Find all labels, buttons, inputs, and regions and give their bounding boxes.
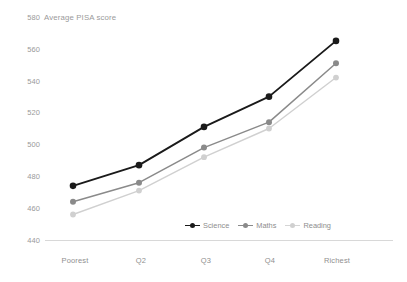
legend-marker-science-icon bbox=[185, 222, 200, 229]
legend-label-maths: Maths bbox=[255, 221, 276, 230]
series-line-maths bbox=[73, 63, 336, 202]
data-point[interactable] bbox=[266, 93, 273, 100]
data-point[interactable] bbox=[333, 60, 339, 66]
x-axis-label-richest: Richest bbox=[324, 256, 350, 265]
data-point[interactable] bbox=[201, 145, 207, 151]
pisa-score-line-chart: Average PISA score 580 560 540 520 500 4… bbox=[0, 0, 407, 282]
x-axis-label-q2: Q2 bbox=[136, 256, 146, 265]
series-maths bbox=[70, 60, 339, 205]
data-point[interactable] bbox=[136, 180, 142, 186]
data-point[interactable] bbox=[70, 199, 76, 205]
legend-label-science: Science bbox=[202, 221, 229, 230]
legend-marker-reading-icon bbox=[285, 222, 300, 229]
legend-item-reading[interactable]: Reading bbox=[285, 221, 331, 230]
data-point[interactable] bbox=[136, 188, 142, 194]
plot-area bbox=[0, 0, 407, 282]
data-point[interactable] bbox=[266, 126, 272, 132]
data-point[interactable] bbox=[201, 154, 207, 160]
data-point[interactable] bbox=[136, 162, 143, 169]
chart-legend: Science Maths Reading bbox=[185, 221, 331, 230]
data-point[interactable] bbox=[201, 124, 208, 131]
legend-item-maths[interactable]: Maths bbox=[238, 221, 276, 230]
series-line-science bbox=[73, 41, 336, 186]
x-axis-label-poorest: Poorest bbox=[62, 256, 89, 265]
series-science bbox=[70, 38, 340, 190]
legend-item-science[interactable]: Science bbox=[185, 221, 229, 230]
legend-label-reading: Reading bbox=[302, 221, 331, 230]
x-axis-label-q4: Q4 bbox=[265, 256, 275, 265]
data-point[interactable] bbox=[70, 212, 76, 218]
data-point[interactable] bbox=[333, 75, 339, 81]
data-point[interactable] bbox=[266, 119, 272, 125]
x-axis-label-q3: Q3 bbox=[201, 256, 211, 265]
data-point[interactable] bbox=[333, 38, 340, 45]
legend-marker-maths-icon bbox=[238, 222, 253, 229]
data-point[interactable] bbox=[70, 183, 77, 190]
